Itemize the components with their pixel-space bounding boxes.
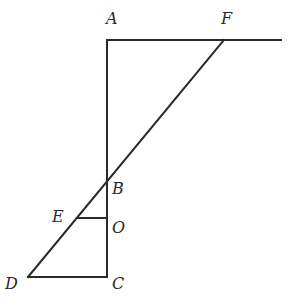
label-A: A <box>104 9 118 28</box>
label-F: F <box>220 9 233 28</box>
label-B: B <box>111 179 124 198</box>
segment-DF <box>28 40 224 277</box>
label-C: C <box>112 274 124 293</box>
label-D: D <box>4 274 18 293</box>
label-E: E <box>51 207 64 226</box>
geometry-diagram: A F B O E D C <box>0 0 290 304</box>
label-O: O <box>112 218 125 237</box>
